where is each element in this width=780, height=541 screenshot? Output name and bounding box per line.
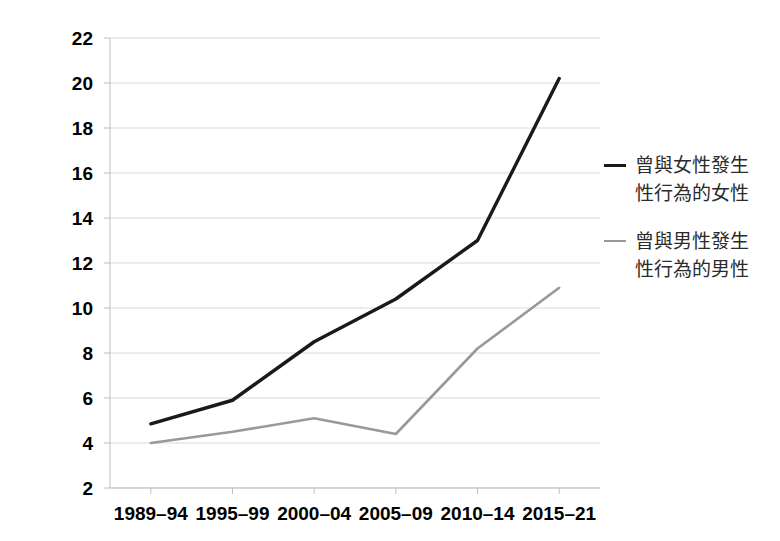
x-axis-tick-labels: 1989–941995–992000–042005–092010–142015–… <box>114 503 597 524</box>
y-tick-label: 4 <box>82 433 93 454</box>
x-tick-label: 2015–21 <box>522 503 596 524</box>
x-tick-label: 1995–99 <box>196 503 270 524</box>
x-tick-label: 2000–04 <box>277 503 351 524</box>
series-line-women <box>151 79 559 424</box>
legend-label-men-line2: 性行為的男性 <box>635 259 749 280</box>
legend-label-men: 曾與男性發生 性行為的男性 <box>635 228 749 283</box>
y-axis-tick-labels: 246810121416182022 <box>72 28 94 499</box>
legend-label-women-line2: 性行為的女性 <box>635 183 749 204</box>
y-tick-label: 22 <box>72 28 93 49</box>
y-tick-label: 2 <box>82 478 93 499</box>
x-tick-marks <box>151 488 559 494</box>
data-series <box>151 79 559 444</box>
y-tick-label: 14 <box>72 208 94 229</box>
legend-item-men: 曾與男性發生 性行為的男性 <box>604 228 749 283</box>
series-line-men <box>151 288 559 443</box>
legend-label-men-line1: 曾與男性發生 <box>635 231 749 252</box>
y-tick-label: 8 <box>82 343 93 364</box>
legend-item-women: 曾與女性發生 性行為的女性 <box>604 152 749 207</box>
y-tick-label: 10 <box>72 298 93 319</box>
y-tick-label: 12 <box>72 253 93 274</box>
y-tick-marks <box>104 38 110 488</box>
legend-label-women-line1: 曾與女性發生 <box>635 155 749 176</box>
legend-swatch-women-icon <box>604 164 626 167</box>
x-tick-label: 2005–09 <box>359 503 433 524</box>
legend-label-women: 曾與女性發生 性行為的女性 <box>635 152 749 207</box>
y-tick-label: 16 <box>72 163 93 184</box>
x-tick-label: 2010–14 <box>441 503 515 524</box>
y-tick-label: 18 <box>72 118 93 139</box>
legend-swatch-men-icon <box>604 240 626 242</box>
gridlines <box>110 38 600 488</box>
chart-container: 246810121416182022 1989–941995–992000–04… <box>0 0 780 541</box>
y-tick-label: 6 <box>82 388 93 409</box>
y-tick-label: 20 <box>72 73 93 94</box>
x-tick-label: 1989–94 <box>114 503 188 524</box>
